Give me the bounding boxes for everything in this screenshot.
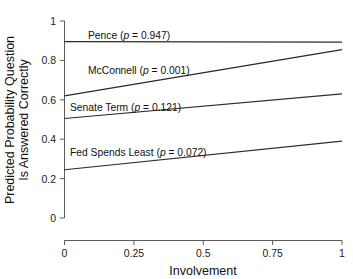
series-label-senate-term: Senate Term (p = 0.121) (70, 102, 181, 113)
y-tick-label-0.2: 0.2 (41, 173, 56, 185)
x-tick-label-0.5: 0.5 (196, 247, 211, 259)
y-axis-title-line2: Is Answered Correctly (17, 58, 31, 180)
x-tick-label-0.25: 0.25 (124, 247, 145, 259)
y-axis-title-line1: Predicted Probability Question (3, 36, 17, 204)
x-axis-title: Involvement (169, 264, 237, 278)
series-label-pence: Pence (p = 0.947) (88, 30, 170, 41)
chart-figure: 1 0.8 0.6 0.4 0.2 0 0 0.25 0.5 0.75 1 Pe… (0, 0, 353, 279)
y-tick-label-0.8: 0.8 (41, 54, 56, 66)
series-label-mcconnell: McConnell (p = 0.001) (88, 65, 190, 76)
series-label-fed-spends-least: Fed Spends Least (p = 0.072) (70, 147, 207, 158)
x-tick-label-0.75: 0.75 (262, 247, 283, 259)
y-tick-label-0.4: 0.4 (41, 133, 56, 145)
x-tick-label-0: 0 (62, 247, 68, 259)
chart-plot-area: 1 0.8 0.6 0.4 0.2 0 0 0.25 0.5 0.75 1 Pe… (0, 0, 353, 279)
y-tick-label-0.6: 0.6 (41, 94, 56, 106)
y-tick-label-1: 1 (50, 15, 56, 27)
x-tick-label-1: 1 (339, 247, 345, 259)
y-tick-label-0: 0 (50, 212, 56, 224)
